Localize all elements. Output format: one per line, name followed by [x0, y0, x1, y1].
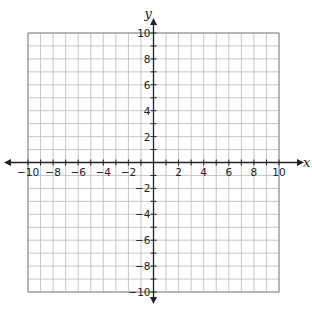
- y-tick-label: 2: [144, 131, 151, 143]
- x-tick-label: 10: [272, 166, 285, 178]
- x-tick-label: −4: [96, 166, 112, 178]
- y-tick-label: −6: [135, 234, 151, 246]
- y-axis-label: y: [144, 6, 153, 21]
- y-tick-label: −10: [128, 286, 150, 298]
- y-tick-label: 8: [144, 53, 151, 65]
- x-tick-label: 2: [175, 166, 182, 178]
- y-tick-label: 10: [137, 27, 150, 39]
- x-tick-label: 6: [225, 166, 232, 178]
- x-tick-label: −2: [121, 166, 136, 178]
- x-tick-label: −6: [70, 166, 86, 178]
- y-tick-label: 4: [144, 105, 151, 117]
- axes: [4, 18, 304, 304]
- y-tick-label: 6: [144, 79, 151, 91]
- x-axis-left-arrow-icon: [4, 159, 11, 166]
- x-tick-label: −8: [45, 166, 60, 178]
- x-tick-label: −10: [17, 166, 39, 178]
- coordinate-plane: −10−8−6−4−2246810 108642−2−4−6−8−10 x y: [0, 0, 312, 309]
- y-tick-label: −8: [135, 260, 150, 272]
- x-tick-label: 8: [251, 166, 258, 178]
- x-tick-label: 4: [200, 166, 207, 178]
- y-tick-label: −4: [135, 208, 151, 220]
- y-axis-down-arrow-icon: [150, 297, 157, 304]
- y-tick-label: −2: [135, 182, 150, 194]
- x-axis-label: x: [303, 155, 311, 170]
